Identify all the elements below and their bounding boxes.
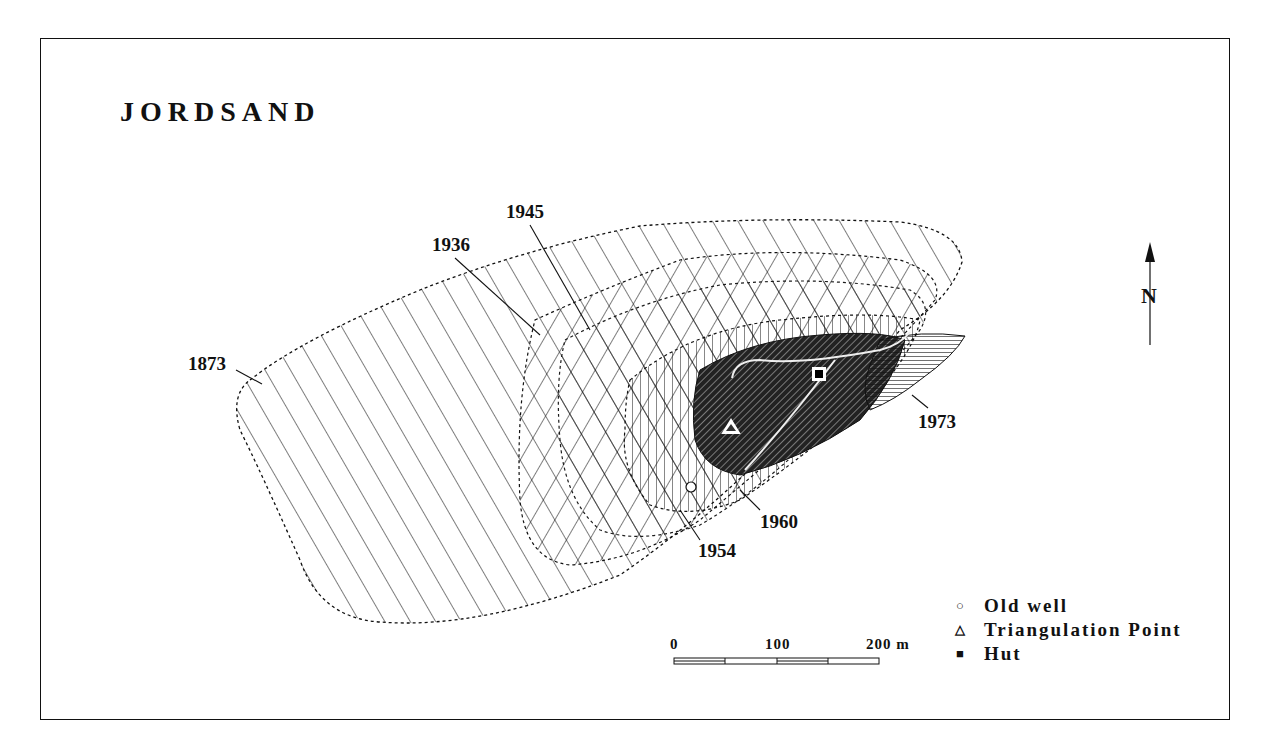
legend: ○ Old well △ Triangulation Point ■ Hut [954,594,1182,666]
year-label-1945: 1945 [506,201,544,222]
triangle-icon: △ [954,618,968,642]
legend-item-hut: ■ Hut [954,642,1182,666]
scale-label-200: 200 m [866,636,910,653]
legend-item-old-well: ○ Old well [954,594,1182,618]
north-arrow-icon: N [1141,242,1157,345]
old-well-marker [686,482,696,492]
year-label-1936: 1936 [432,234,470,255]
outline-1973 [865,334,965,410]
scale-bar [674,658,879,664]
legend-label: Hut [984,642,1022,666]
year-label-1873: 1873 [188,353,226,374]
square-icon: ■ [954,642,968,666]
circle-icon: ○ [954,594,968,618]
legend-label: Old well [984,594,1068,618]
year-label-1954: 1954 [698,540,737,561]
year-label-1973: 1973 [918,411,956,432]
legend-item-triangulation-point: △ Triangulation Point [954,618,1182,642]
scale-label-100: 100 [765,636,791,653]
year-label-1960: 1960 [760,511,798,532]
north-label: N [1141,283,1157,308]
scale-label-0: 0 [670,636,679,653]
legend-label: Triangulation Point [984,618,1182,642]
